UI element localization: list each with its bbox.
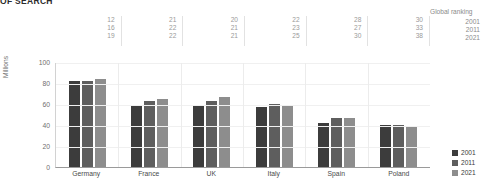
y-axis-tick: 80: [16, 80, 50, 87]
bar[interactable]: [95, 79, 106, 167]
legend-item[interactable]: 2011: [452, 158, 476, 168]
bar[interactable]: [393, 125, 404, 167]
global-ranking-years: 200120112021: [430, 18, 480, 43]
bar[interactable]: [206, 101, 217, 167]
global-ranking-value: 22: [122, 24, 177, 32]
global-ranking-cell: 222325: [245, 16, 307, 46]
y-axis-tick: 40: [16, 122, 50, 129]
bar-group: [181, 63, 243, 167]
bar-group: [305, 63, 367, 167]
chart-title: OF SEARCH: [0, 0, 53, 6]
bar-group: [118, 63, 180, 167]
bar[interactable]: [318, 123, 329, 167]
global-ranking-year: 2001: [430, 18, 480, 26]
legend-swatch-icon: [452, 170, 458, 176]
global-ranking-cell: 282730: [307, 16, 369, 46]
bar[interactable]: [131, 105, 142, 167]
group-separator: [118, 63, 119, 167]
x-axis-label: France: [118, 170, 181, 177]
x-axis-label: Spain: [305, 170, 368, 177]
bar[interactable]: [282, 105, 293, 167]
global-ranking-value: 21: [122, 16, 177, 24]
bar[interactable]: [82, 81, 93, 167]
global-ranking-value: 19: [60, 32, 115, 40]
group-separator: [305, 63, 306, 167]
bar[interactable]: [269, 104, 280, 167]
legend-label: 2021: [461, 168, 476, 178]
group-separator: [368, 63, 369, 167]
global-ranking-value: 28: [307, 16, 362, 24]
plot-area: [55, 63, 430, 168]
bar[interactable]: [144, 101, 155, 167]
y-axis-label: Millions: [2, 56, 9, 78]
bar-group: [56, 63, 118, 167]
global-ranking-value: 21: [183, 24, 238, 32]
legend-swatch-icon: [452, 150, 458, 156]
bar-group: [368, 63, 430, 167]
global-ranking-value: 12: [60, 16, 115, 24]
group-separator: [181, 63, 182, 167]
global-ranking-value: 33: [368, 24, 423, 32]
y-axis-tick: 60: [16, 101, 50, 108]
group-separator: [243, 63, 244, 167]
bar[interactable]: [69, 81, 80, 167]
bar[interactable]: [256, 107, 267, 167]
global-ranking-year: 2011: [430, 26, 480, 34]
y-axis-tick: 100: [16, 59, 50, 66]
legend-label: 2011: [461, 158, 475, 168]
legend-item[interactable]: 2021: [452, 168, 476, 178]
global-ranking-value: 23: [245, 24, 300, 32]
global-ranking-table: 121619212222202121222325282730303338: [60, 16, 430, 46]
global-ranking-header: Global ranking: [430, 8, 473, 15]
bar[interactable]: [219, 97, 230, 167]
bar[interactable]: [157, 99, 168, 167]
y-axis-tick: 20: [16, 143, 50, 150]
global-ranking-value: 30: [368, 16, 423, 24]
global-ranking-value: 22: [245, 16, 300, 24]
global-ranking-year: 2021: [430, 34, 480, 42]
global-ranking-cell: 303338: [368, 16, 430, 46]
global-ranking-value: 25: [245, 32, 300, 40]
global-ranking-value: 21: [183, 32, 238, 40]
bar[interactable]: [193, 105, 204, 167]
legend-label: 2001: [461, 148, 476, 158]
global-ranking-value: 30: [307, 32, 362, 40]
global-ranking-value: 16: [60, 24, 115, 32]
legend-swatch-icon: [452, 160, 458, 166]
chart-container: OF SEARCH Global ranking 200120112021 12…: [0, 0, 486, 191]
global-ranking-value: 38: [368, 32, 423, 40]
bar-group: [243, 63, 305, 167]
chart-legend: 200120112021: [452, 148, 476, 178]
global-ranking-cell: 212222: [122, 16, 184, 46]
global-ranking-value: 22: [122, 32, 177, 40]
global-ranking-value: 27: [307, 24, 362, 32]
legend-item[interactable]: 2001: [452, 148, 476, 158]
y-axis-tick: 0: [16, 164, 50, 171]
x-axis-label: UK: [180, 170, 243, 177]
x-axis-label: Poland: [368, 170, 431, 177]
x-axis-label: Germany: [55, 170, 118, 177]
global-ranking-value: 20: [183, 16, 238, 24]
x-axis-labels: GermanyFranceUKItalySpainPoland: [55, 170, 430, 177]
global-ranking-cell: 121619: [60, 16, 122, 46]
global-ranking-cell: 202121: [183, 16, 245, 46]
x-axis-label: Italy: [243, 170, 306, 177]
bar[interactable]: [380, 125, 391, 167]
